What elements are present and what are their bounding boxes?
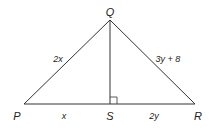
vertex-label-p: P — [13, 110, 21, 122]
vertex-label-s: S — [106, 110, 114, 122]
vertex-label-r: R — [194, 110, 202, 122]
segment-label-ps: x — [61, 111, 67, 121]
right-angle-marker — [110, 97, 117, 104]
triangle-diagram: Q P S R 2x 3y + 8 x 2y — [0, 0, 215, 128]
segment-label-sr: 2y — [148, 111, 159, 121]
segment-label-pq: 2x — [52, 54, 63, 64]
segment-pq — [24, 20, 110, 104]
vertex-label-q: Q — [106, 6, 115, 18]
segment-qr — [110, 20, 195, 104]
segment-label-qr: 3y + 8 — [156, 54, 181, 64]
